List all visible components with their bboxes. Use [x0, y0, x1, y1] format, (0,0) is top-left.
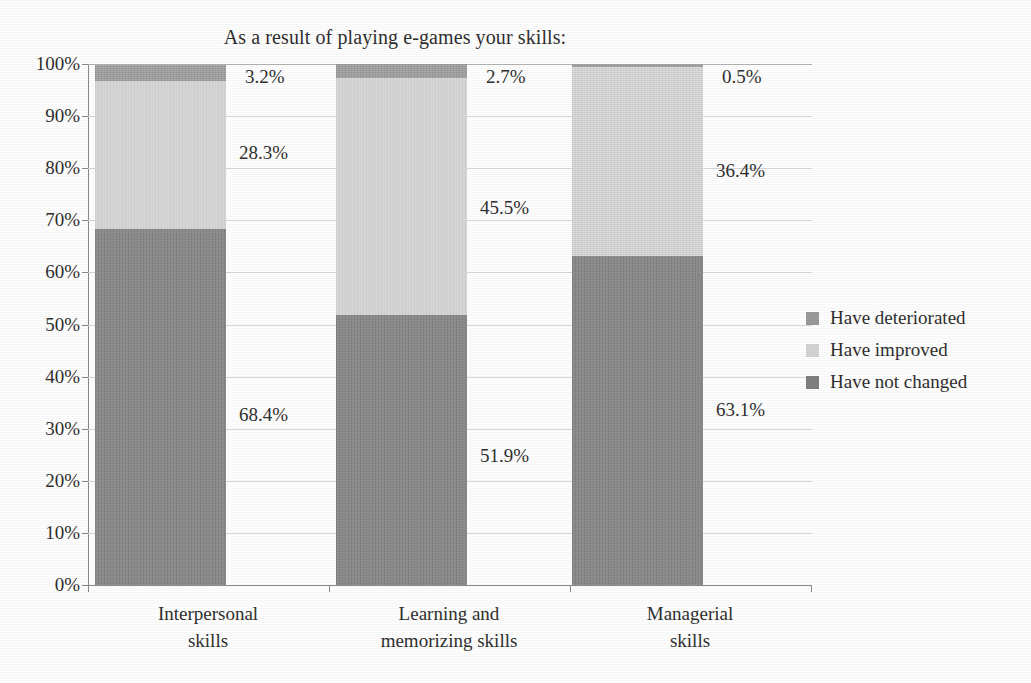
y-tick-label-80: 80%: [22, 157, 80, 179]
y-tick-label-30: 30%: [22, 418, 80, 440]
legend-swatch-icon-not-changed: [806, 376, 819, 389]
y-tick-label-0: 0%: [22, 574, 80, 596]
y-tick-label-10: 10%: [22, 522, 80, 544]
bar-group-interpersonal-skills[interactable]: [95, 64, 226, 585]
x-category-line-2: skills: [570, 627, 810, 654]
chart-legend: Have deteriorated Have improved Have not…: [806, 302, 1021, 398]
legend-item-have-deteriorated[interactable]: Have deteriorated: [806, 302, 1021, 334]
y-tick-label-70: 70%: [22, 209, 80, 231]
data-label-interpersonal-deteriorated: 3.2%: [245, 66, 285, 88]
x-category-line-2: skills: [88, 627, 328, 654]
bar-segment-deteriorated[interactable]: [336, 64, 467, 78]
y-tick-40: [82, 377, 88, 378]
x-category-label-interpersonal-skills: Interpersonal skills: [88, 600, 328, 654]
bar-segment-not-changed[interactable]: [336, 315, 467, 585]
y-tick-label-60: 60%: [22, 261, 80, 283]
bar-segment-deteriorated[interactable]: [95, 65, 226, 82]
segment-texture: [95, 229, 226, 585]
segment-texture: [336, 315, 467, 585]
x-category-line-1: Managerial: [570, 600, 810, 627]
x-tick-1: [329, 585, 330, 592]
y-tick-60: [82, 272, 88, 273]
y-tick-90: [82, 116, 88, 117]
y-tick-50: [82, 325, 88, 326]
segment-texture: [572, 256, 703, 585]
y-tick-100: [82, 64, 88, 65]
segment-texture: [95, 65, 226, 82]
x-category-line-2: memorizing skills: [329, 627, 569, 654]
y-tick-80: [82, 168, 88, 169]
bar-segment-improved[interactable]: [572, 67, 703, 257]
chart-figure: As a result of playing e-games your skil…: [0, 0, 1031, 683]
y-tick-label-100: 100%: [22, 53, 80, 75]
segment-texture: [95, 81, 226, 228]
x-axis-line: [88, 585, 812, 586]
x-tick-end: [811, 585, 812, 592]
bar-segment-improved[interactable]: [95, 81, 226, 228]
data-label-interpersonal-not-changed: 68.4%: [239, 404, 288, 426]
legend-label-not-changed: Have not changed: [830, 371, 967, 393]
x-tick-2: [570, 585, 571, 592]
y-tick-label-90: 90%: [22, 105, 80, 127]
segment-texture: [572, 67, 703, 257]
y-tick-70: [82, 220, 88, 221]
data-label-managerial-not-changed: 63.1%: [716, 399, 765, 421]
x-category-label-learning-and-memorizing-skills: Learning and memorizing skills: [329, 600, 569, 654]
x-category-line-1: Learning and: [329, 600, 569, 627]
data-label-managerial-deteriorated: 0.5%: [722, 66, 762, 88]
y-tick-label-20: 20%: [22, 470, 80, 492]
legend-swatch-icon-deteriorated: [806, 312, 819, 325]
chart-title: As a result of playing e-games your skil…: [0, 26, 790, 49]
bar-segment-not-changed[interactable]: [95, 229, 226, 585]
bar-segment-improved[interactable]: [336, 78, 467, 315]
x-category-label-managerial-skills: Managerial skills: [570, 600, 810, 654]
y-tick-label-50: 50%: [22, 314, 80, 336]
segment-texture: [336, 78, 467, 315]
legend-label-improved: Have improved: [830, 339, 948, 361]
y-tick-label-40: 40%: [22, 366, 80, 388]
legend-swatch-icon-improved: [806, 344, 819, 357]
bar-group-learning-and-memorizing-skills[interactable]: [336, 64, 467, 585]
data-label-learning-deteriorated: 2.7%: [486, 66, 526, 88]
y-tick-20: [82, 481, 88, 482]
data-label-interpersonal-improved: 28.3%: [239, 142, 288, 164]
y-tick-30: [82, 429, 88, 430]
bar-segment-not-changed[interactable]: [572, 256, 703, 585]
legend-item-have-improved[interactable]: Have improved: [806, 334, 1021, 366]
y-tick-10: [82, 533, 88, 534]
data-label-learning-not-changed: 51.9%: [480, 445, 529, 467]
legend-item-have-not-changed[interactable]: Have not changed: [806, 366, 1021, 398]
legend-label-deteriorated: Have deteriorated: [830, 307, 966, 329]
x-tick-start: [88, 585, 89, 592]
bar-group-managerial-skills[interactable]: [572, 64, 703, 585]
plot-area: 3.2% 28.3% 68.4% 2.7% 45.5% 51.9% 0.5% 3…: [88, 64, 812, 585]
y-axis: 100% 90% 80% 70% 60% 50% 40% 30% 20% 10%…: [16, 64, 80, 585]
data-label-managerial-improved: 36.4%: [716, 160, 765, 182]
x-category-line-1: Interpersonal: [88, 600, 328, 627]
segment-texture: [336, 64, 467, 78]
data-label-learning-improved: 45.5%: [480, 197, 529, 219]
